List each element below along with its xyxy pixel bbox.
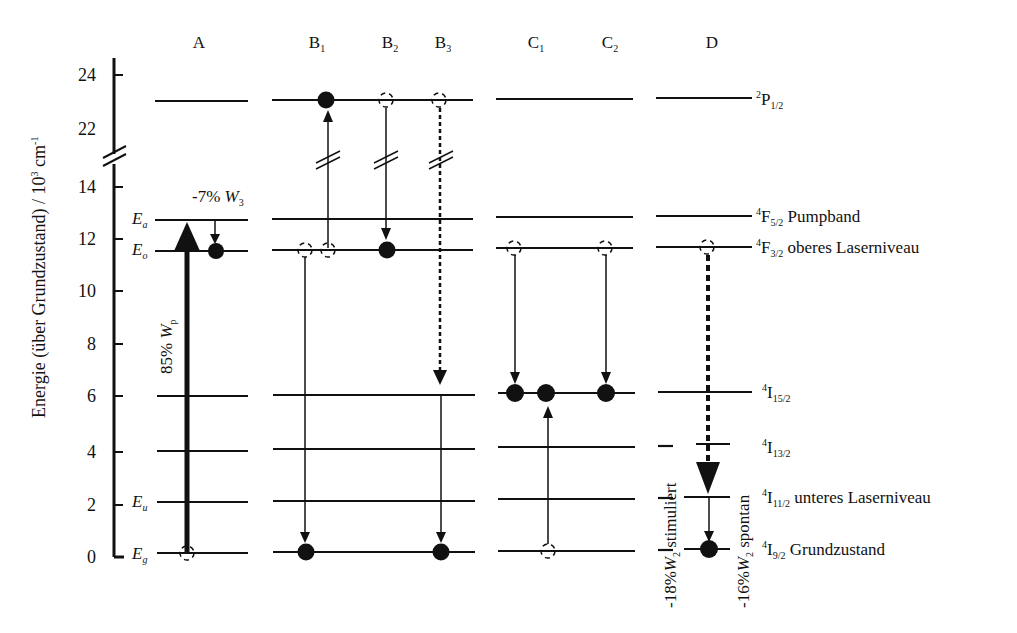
column-b1-label: B	[309, 33, 320, 52]
marker-eo: Eo	[132, 241, 147, 261]
column-b2-sub: 2	[393, 43, 398, 54]
transition-a-pump	[174, 222, 200, 560]
y-axis-label-unit: cm	[29, 145, 49, 172]
w3-pct: -7%	[192, 187, 225, 206]
marker-eg: Eg	[132, 545, 147, 565]
marker-eo-sub: o	[142, 250, 147, 261]
level-label-4i112: 4I11/2 unteres Laserniveau	[762, 488, 931, 509]
column-b2-header: B2	[382, 34, 398, 54]
column-b2-label: B	[382, 33, 393, 52]
energy-level-diagram	[0, 0, 1017, 633]
level-4i92-sub: 9/2	[773, 550, 786, 561]
transition-b1	[298, 92, 341, 561]
level-label-4i152: 4I15/2	[762, 383, 790, 404]
column-b3-header: B3	[435, 34, 451, 54]
y-axis-label-sup: 3	[29, 171, 40, 176]
level-label-4f32: 4F3/2 oberes Laserniveau	[756, 238, 919, 259]
level-label-4i92: 4I9/2 Grundzustand	[762, 540, 885, 561]
level-4i152-sub: 15/2	[773, 393, 791, 404]
y-axis	[114, 58, 124, 557]
stim-sub: 2	[671, 552, 682, 557]
column-b3-label: B	[435, 33, 446, 52]
tick-0: 0	[66, 548, 96, 566]
spont-word: spontan	[734, 495, 753, 552]
level-4f52-sub: 5/2	[770, 217, 783, 228]
level-4f52-desc: Pumpband	[783, 207, 860, 226]
column-c1-header: C1	[528, 34, 544, 54]
tick-4: 4	[66, 443, 96, 461]
marker-eu: Eu	[132, 493, 147, 513]
annotation-pump: 85% Wp	[158, 319, 178, 374]
spont-sub: 2	[744, 552, 755, 557]
column-d-header: D	[706, 34, 718, 54]
marker-eg-sym: E	[132, 544, 142, 563]
pump-sub: p	[167, 319, 178, 324]
spont-sym: W	[734, 557, 753, 571]
y-axis-label: Energie (über Grundzustand) / 103 cm-1	[30, 137, 48, 418]
annotation-w3: -7% W3	[192, 188, 244, 208]
marker-eu-sub: u	[142, 502, 147, 513]
column-a-header: A	[193, 34, 205, 54]
marker-ea-sym: E	[132, 209, 142, 228]
column-d-label: D	[706, 33, 718, 52]
tick-8: 8	[66, 335, 96, 353]
column-c2-header: C2	[602, 34, 618, 54]
annotation-stimuliert: -18%W2 stimuliert	[662, 483, 682, 608]
column-b1-sub: 1	[320, 43, 325, 54]
y-axis-label-text: Energie (über Grundzustand) / 10	[29, 176, 49, 418]
level-2p12-sub: 1/2	[770, 100, 783, 111]
transition-c1	[506, 241, 555, 558]
stim-pct: -18%	[661, 571, 680, 608]
level-4f32-sub: 3/2	[770, 248, 783, 259]
level-label-4f52: 4F5/2 Pumpband	[756, 207, 860, 228]
w3-sub: 3	[239, 197, 244, 208]
level-4i92-desc: Grundzustand	[785, 540, 885, 559]
tick-14: 14	[66, 178, 96, 196]
column-c1-label: C	[528, 33, 539, 52]
column-c2-label: C	[602, 33, 613, 52]
transition-c2	[597, 241, 615, 402]
stim-word: stimuliert	[661, 483, 680, 552]
marker-eg-sub: g	[142, 554, 147, 565]
tick-6: 6	[66, 387, 96, 405]
column-a-label: A	[193, 33, 205, 52]
level-leaders	[741, 98, 752, 392]
column-c2-sub: 2	[613, 43, 618, 54]
tick-24: 24	[66, 66, 96, 84]
tick-12: 12	[66, 230, 96, 248]
pump-pct: 85%	[157, 339, 176, 374]
level-label-4i132: 4I13/2	[762, 438, 790, 459]
marker-eu-sym: E	[132, 492, 142, 511]
tick-22: 22	[66, 120, 96, 138]
marker-eo-sym: E	[132, 240, 142, 259]
y-axis-label-unit-sup: -1	[29, 137, 40, 145]
transition-d	[696, 240, 720, 558]
w3-sym: W	[225, 187, 239, 206]
level-4i112-desc: unteres Laserniveau	[790, 488, 931, 507]
marker-ea: Ea	[132, 210, 147, 230]
transition-b2	[374, 93, 398, 259]
column-c1-sub: 1	[539, 43, 544, 54]
transition-a-w3	[208, 220, 224, 259]
tick-2: 2	[66, 496, 96, 514]
tick-10: 10	[66, 282, 96, 300]
column-b3-sub: 3	[446, 43, 451, 54]
level-label-2p12: 2P1/2	[756, 90, 783, 111]
marker-ea-sub: a	[142, 219, 147, 230]
column-b1-header: B1	[309, 34, 325, 54]
level-4i112-sub: 11/2	[773, 498, 790, 509]
transition-b3	[429, 93, 453, 561]
pump-sym: W	[157, 324, 176, 338]
level-4f32-desc: oberes Laserniveau	[783, 238, 919, 257]
level-4i132-sub: 13/2	[773, 448, 791, 459]
stim-sym: W	[661, 557, 680, 571]
spont-pct: -16%	[734, 571, 753, 608]
annotation-spontan: -16%W2 spontan	[735, 495, 755, 608]
